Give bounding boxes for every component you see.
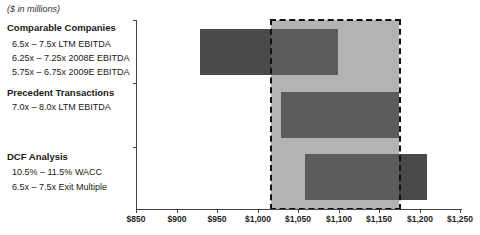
x-tick-label: $1,100 <box>326 214 352 224</box>
x-tick <box>258 209 259 213</box>
x-tick-label: $1,200 <box>407 214 433 224</box>
group-title-dcf: DCF Analysis <box>7 151 68 162</box>
x-tick-label: $1,050 <box>285 214 311 224</box>
valuation-range-border <box>270 19 401 210</box>
x-tick <box>339 209 340 213</box>
x-tick-label: $900 <box>168 214 187 224</box>
group-title-comparable: Comparable Companies <box>7 22 116 33</box>
x-tick <box>298 209 299 213</box>
group-item: 6.5x – 7.5x LTM EBITDA <box>12 39 111 49</box>
units-label: ($ in millions) <box>7 4 60 14</box>
group-item: 10.5% – 11.5% WACC <box>12 167 102 177</box>
x-axis <box>136 209 462 210</box>
x-tick <box>379 209 380 213</box>
bar-comparable-outside <box>200 29 271 75</box>
x-tick <box>420 209 421 213</box>
x-tick <box>177 209 178 213</box>
group-item: 7.0x – 8.0x LTM EBITDA <box>12 102 111 112</box>
x-tick-label: $1,250 <box>447 214 473 224</box>
group-item: 5.75x – 6.75x 2009E EBITDA <box>12 67 130 77</box>
x-tick-label: $1,150 <box>366 214 392 224</box>
x-tick-label: $850 <box>127 214 146 224</box>
x-tick-label: $950 <box>208 214 227 224</box>
group-title-precedent: Precedent Transactions <box>7 87 114 98</box>
y-tick <box>133 83 136 84</box>
group-item: 6.5x – 7.5x Exit Multiple <box>12 182 107 192</box>
bar-dcf-outside <box>399 154 427 200</box>
group-item: 6.25x – 7.25x 2008E EBITDA <box>12 53 130 63</box>
x-tick <box>217 209 218 213</box>
x-tick-label: $1,000 <box>245 214 271 224</box>
x-tick <box>460 209 461 213</box>
x-tick <box>136 209 137 213</box>
y-axis <box>136 20 137 210</box>
y-tick <box>133 147 136 148</box>
y-tick <box>133 20 136 21</box>
